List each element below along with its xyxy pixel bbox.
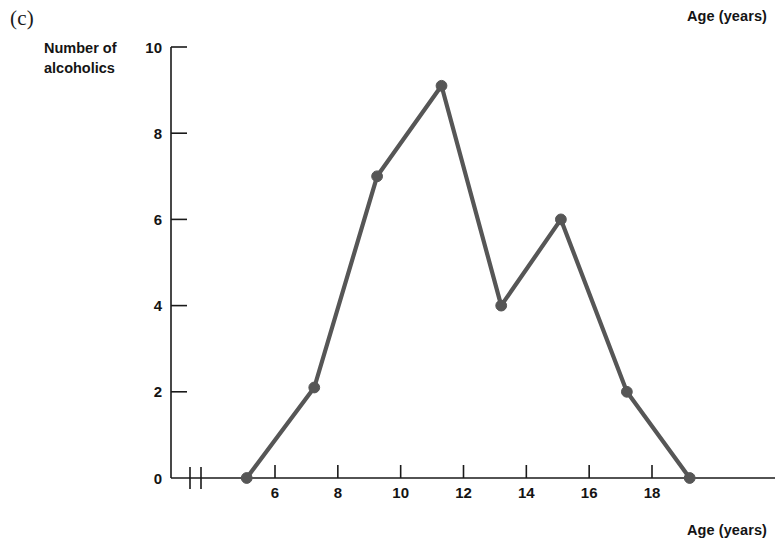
x-axis-tick-label: 14 bbox=[518, 484, 535, 501]
data-point-marker bbox=[309, 382, 320, 393]
x-axis-tick-label: 6 bbox=[271, 484, 279, 501]
x-axis-tick-label: 10 bbox=[392, 484, 409, 501]
figure-root: (c) Age (years) Age (years) Number of al… bbox=[0, 0, 775, 550]
line-chart-plot: 0246810 681012141618 bbox=[0, 0, 775, 550]
y-axis-tick-label: 6 bbox=[154, 211, 162, 228]
data-point-marker bbox=[684, 473, 695, 484]
y-axis-tick-label: 8 bbox=[154, 125, 162, 142]
series-line bbox=[247, 86, 690, 478]
data-point-marker bbox=[496, 300, 507, 311]
y-axis: 0246810 bbox=[145, 39, 187, 487]
x-axis-tick-label: 8 bbox=[334, 484, 342, 501]
x-axis-tick-label: 18 bbox=[644, 484, 661, 501]
data-point-marker bbox=[241, 473, 252, 484]
x-axis-tick-label: 12 bbox=[455, 484, 472, 501]
x-axis-tick-label: 16 bbox=[581, 484, 598, 501]
data-point-marker bbox=[372, 171, 383, 182]
data-series bbox=[241, 80, 695, 483]
data-point-marker bbox=[555, 214, 566, 225]
y-axis-tick-label: 10 bbox=[145, 39, 162, 56]
y-axis-tick-label: 0 bbox=[154, 470, 162, 487]
data-point-marker bbox=[621, 386, 632, 397]
y-axis-tick-label: 4 bbox=[154, 297, 163, 314]
y-axis-tick-label: 2 bbox=[154, 383, 162, 400]
data-point-marker bbox=[436, 80, 447, 91]
